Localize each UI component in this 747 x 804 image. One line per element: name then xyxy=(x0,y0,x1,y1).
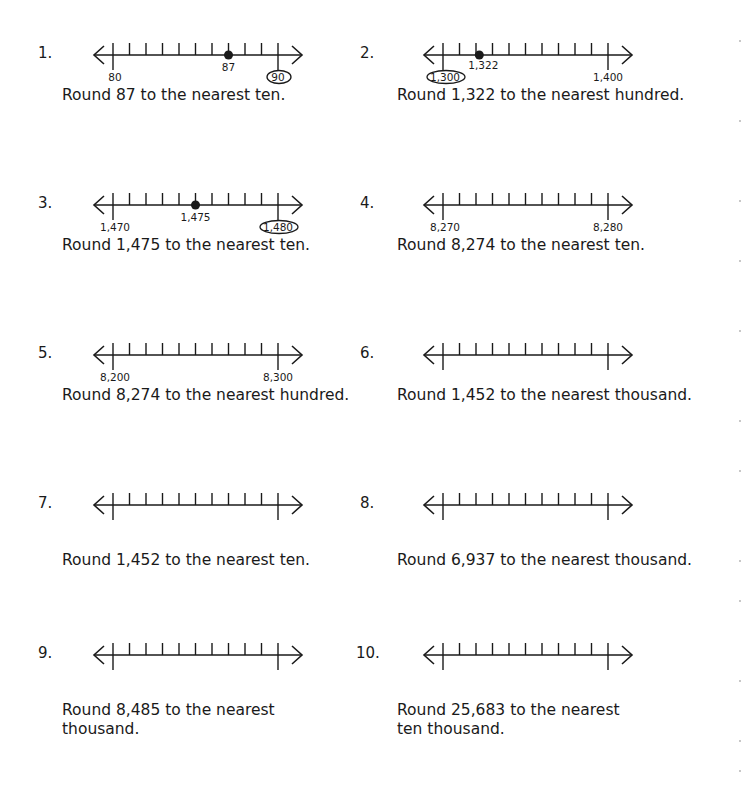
problem-number: 10. xyxy=(356,644,380,662)
problem-number: 9. xyxy=(38,644,52,662)
problem-number: 6. xyxy=(360,344,374,362)
prompt-line: Round 87 to the nearest ten. xyxy=(62,86,285,105)
point-label: 1,475 xyxy=(180,211,210,223)
prompt-line: Round 1,452 to the nearest ten. xyxy=(62,551,310,570)
number-line xyxy=(92,641,304,691)
prompt-line: ten thousand. xyxy=(397,720,620,739)
number-line xyxy=(422,491,634,541)
number-line xyxy=(92,491,304,541)
plotted-point xyxy=(224,51,233,60)
problem-prompt: Round 6,937 to the nearest thousand. xyxy=(397,551,692,570)
prompt-line: Round 1,452 to the nearest thousand. xyxy=(397,386,692,405)
problem-number: 8. xyxy=(360,494,374,512)
right-endpoint-label: 1,400 xyxy=(593,71,623,83)
left-endpoint-label: 80 xyxy=(108,71,121,83)
prompt-line: Round 8,274 to the nearest ten. xyxy=(397,236,645,255)
problem-number: 3. xyxy=(38,194,52,212)
number-line: 1,3001,4001,322 xyxy=(422,41,634,91)
problem-prompt: Round 8,485 to the nearestthousand. xyxy=(62,701,275,739)
number-line xyxy=(422,341,634,391)
number-line: 8,2008,300 xyxy=(92,341,304,391)
problem-prompt: Round 87 to the nearest ten. xyxy=(62,86,285,105)
problem-number: 7. xyxy=(38,494,52,512)
prompt-line: Round 6,937 to the nearest thousand. xyxy=(397,551,692,570)
problem-prompt: Round 1,322 to the nearest hundred. xyxy=(397,86,684,105)
right-endpoint-label: 90 xyxy=(271,71,284,83)
right-endpoint-label: 8,280 xyxy=(593,221,623,233)
right-endpoint-label: 8,300 xyxy=(263,371,293,383)
problem-prompt: Round 1,452 to the nearest thousand. xyxy=(397,386,692,405)
problem-prompt: Round 1,452 to the nearest ten. xyxy=(62,551,310,570)
number-line: 809087 xyxy=(92,41,304,91)
left-endpoint-label: 8,200 xyxy=(100,371,130,383)
number-line xyxy=(422,641,634,691)
problem-number: 5. xyxy=(38,344,52,362)
prompt-line: Round 25,683 to the nearest xyxy=(397,701,620,720)
left-endpoint-label: 8,270 xyxy=(430,221,460,233)
prompt-line: Round 1,322 to the nearest hundred. xyxy=(397,86,684,105)
number-line: 8,2708,280 xyxy=(422,191,634,241)
problem-number: 4. xyxy=(360,194,374,212)
prompt-line: Round 8,485 to the nearest xyxy=(62,701,275,720)
left-endpoint-label: 1,300 xyxy=(430,71,460,83)
problem-number: 2. xyxy=(360,44,374,62)
prompt-line: Round 8,274 to the nearest hundred. xyxy=(62,386,349,405)
problem-number: 1. xyxy=(38,44,52,62)
plotted-point xyxy=(191,201,200,210)
prompt-line: Round 1,475 to the nearest ten. xyxy=(62,236,310,255)
problem-prompt: Round 25,683 to the nearestten thousand. xyxy=(397,701,620,739)
problem-prompt: Round 1,475 to the nearest ten. xyxy=(62,236,310,255)
number-line: 1,4701,4801,475 xyxy=(92,191,304,241)
point-label: 1,322 xyxy=(468,59,498,71)
left-endpoint-label: 1,470 xyxy=(100,221,130,233)
right-endpoint-label: 1,480 xyxy=(263,221,293,233)
scan-edge-artifact xyxy=(739,0,743,804)
point-label: 87 xyxy=(222,61,235,73)
prompt-line: thousand. xyxy=(62,720,275,739)
problem-prompt: Round 8,274 to the nearest ten. xyxy=(397,236,645,255)
problem-prompt: Round 8,274 to the nearest hundred. xyxy=(62,386,349,405)
